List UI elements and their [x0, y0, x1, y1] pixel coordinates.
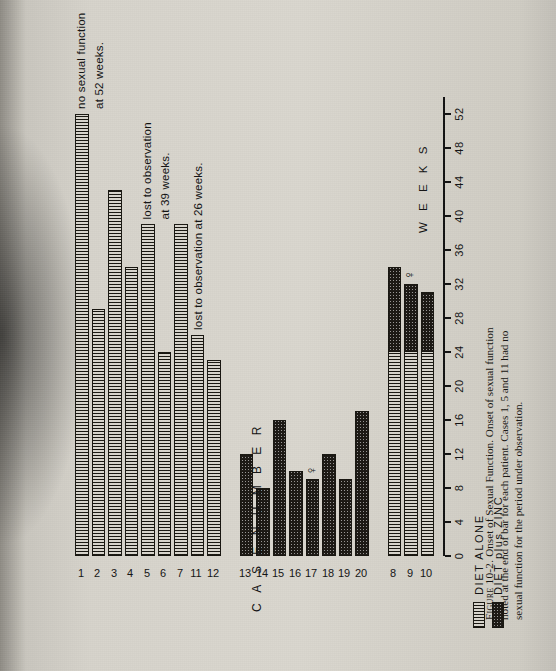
bar-segment-diet-zinc: [355, 411, 369, 556]
x-axis-tick-label: 44: [453, 175, 465, 188]
chart-bar: [322, 454, 336, 556]
x-axis-tick: [445, 215, 451, 217]
case-number-label: 10: [415, 567, 437, 579]
y-axis-title: C A S E N U M B E R: [250, 422, 264, 611]
figure-caption: Figure 10-2. Onset of Sexual Function. O…: [482, 320, 526, 620]
x-axis-tick: [445, 385, 451, 387]
chart-bar: [125, 267, 139, 556]
x-axis-tick-label: 0: [453, 552, 465, 559]
bar-annotation: lost to observation: [141, 122, 153, 219]
x-axis-tick: [445, 249, 451, 251]
x-axis-tick-label: 40: [453, 209, 465, 222]
chart-bar: [355, 411, 369, 556]
case-number-label: 12: [202, 567, 224, 579]
scanned-figure-page: 0481216202428323640444852W E E K S123456…: [0, 0, 556, 671]
chart-bar: [404, 284, 418, 556]
bar-segment-diet-alone: [207, 360, 221, 556]
x-axis-tick: [445, 555, 451, 557]
x-axis-tick-label: 16: [453, 413, 465, 426]
chart-bar: [306, 479, 320, 556]
x-axis-tick: [445, 147, 451, 149]
bar-segment-diet-alone: [404, 352, 418, 556]
bar-segment-diet-alone: [92, 309, 106, 556]
bar-segment-diet-zinc: [421, 292, 435, 352]
bar-segment-diet-zinc: [306, 479, 320, 556]
x-axis-title: W E E K S: [417, 142, 429, 232]
x-axis-tick: [445, 283, 451, 285]
chart-bar: [141, 224, 155, 556]
bar-annotation: at 52 weeks.: [93, 41, 105, 108]
bar-segment-diet-zinc: [289, 471, 303, 556]
x-axis-tick-label: 36: [453, 243, 465, 256]
x-axis-tick: [445, 351, 451, 353]
x-axis-tick: [445, 317, 451, 319]
chart-bar: [388, 267, 402, 556]
bar-segment-diet-alone: [141, 224, 155, 556]
chart-bar: [174, 224, 188, 556]
chart-bar: [92, 309, 106, 556]
x-axis-tick: [445, 487, 451, 489]
bar-segment-diet-zinc: [273, 420, 287, 556]
x-axis-tick: [445, 419, 451, 421]
x-axis-tick: [445, 521, 451, 523]
chart-bar: [289, 471, 303, 556]
caption-lead: Figure 10-2.: [483, 560, 495, 620]
chart-bar: [421, 292, 435, 556]
x-axis-tick-label: 20: [453, 379, 465, 392]
bar-segment-diet-alone: [158, 352, 172, 556]
chart-stage: 0481216202428323640444852W E E K S123456…: [47, 42, 517, 642]
x-axis-tick-label: 8: [453, 484, 465, 491]
chart-bar: [339, 479, 353, 556]
x-axis-tick-label: 48: [453, 141, 465, 154]
bar-segment-diet-alone: [125, 267, 139, 556]
bar-segment-diet-alone: [388, 352, 402, 556]
bar-segment-diet-alone: [75, 114, 89, 556]
x-axis-tick: [445, 113, 451, 115]
bar-segment-diet-alone: [191, 335, 205, 556]
bar-annotation: at 39 weeks.: [159, 152, 171, 219]
sex-symbol-marker: ♀: [304, 465, 320, 476]
x-axis-tick-label: 28: [453, 311, 465, 324]
x-axis-tick: [445, 181, 451, 183]
x-axis-tick-label: 32: [453, 277, 465, 290]
chart-bar: [207, 360, 221, 556]
chart-bar: [75, 114, 89, 556]
chart-bar: [273, 420, 287, 556]
x-axis-tick-label: 12: [453, 447, 465, 460]
x-axis-tick-label: 4: [453, 518, 465, 525]
bar-segment-diet-alone: [174, 224, 188, 556]
bar-segment-diet-alone: [108, 190, 122, 556]
x-axis-tick-label: 24: [453, 345, 465, 358]
bar-annotation: no sexual function: [75, 12, 87, 108]
case-number-label: 20: [350, 567, 372, 579]
bar-annotation: lost to observation at 26 weeks.: [192, 162, 204, 330]
bar-segment-diet-zinc: [322, 454, 336, 556]
bar-segment-diet-zinc: [388, 267, 402, 352]
x-axis-tick: [445, 453, 451, 455]
chart-bar: [108, 190, 122, 556]
bar-segment-diet-zinc: [339, 479, 353, 556]
chart-bar: [158, 352, 172, 556]
x-axis-tick-label: 52: [453, 107, 465, 120]
bar-segment-diet-zinc: [404, 284, 418, 352]
bar-segment-diet-alone: [421, 352, 435, 556]
chart-bar: [191, 335, 205, 556]
sex-symbol-marker: ♀: [402, 269, 418, 280]
